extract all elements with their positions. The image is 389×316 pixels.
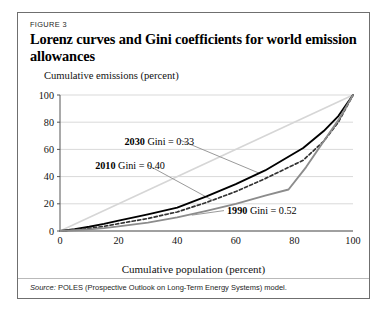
figure-number-label: FIGURE 3 xyxy=(30,20,359,30)
annotation-gini-1990: Gini = 0.52 xyxy=(247,205,296,216)
y-tick-40: 40 xyxy=(44,171,54,182)
annotation-year-2010: 2010 xyxy=(95,160,115,171)
annotation-year-2030: 2030 xyxy=(124,136,144,147)
y-tick-80: 80 xyxy=(44,117,54,128)
x-tick-labels: 020406080100 xyxy=(57,235,360,246)
y-tick-labels: 020406080100 xyxy=(39,90,60,237)
annotation-2030: 2030 Gini = 0.33 xyxy=(124,136,194,147)
y-tick-60: 60 xyxy=(44,144,54,155)
figure-title: Lorenz curves and Gini coefficients for … xyxy=(30,31,359,64)
x-tick-40: 40 xyxy=(172,235,182,246)
x-tick-20: 20 xyxy=(114,235,124,246)
annotation-1990: 1990 Gini = 0.52 xyxy=(227,205,297,216)
figure-card: FIGURE 3 Lorenz curves and Gini coeffici… xyxy=(17,12,370,299)
y-tick-20: 20 xyxy=(44,198,54,209)
x-tick-60: 60 xyxy=(231,235,241,246)
source-note: Source: POLES (Prospective Outlook on Lo… xyxy=(30,283,359,293)
source-text: POLES (Prospective Outlook on Long-Term … xyxy=(58,283,287,292)
x-tick-100: 100 xyxy=(345,235,360,246)
source-separator xyxy=(18,278,369,279)
y-tick-0: 0 xyxy=(49,226,54,237)
annotation-year-1990: 1990 xyxy=(227,205,247,216)
annotation-2010: 2010 Gini = 0.40 xyxy=(95,160,165,171)
annotation-gini-2030: Gini = 0.33 xyxy=(145,136,194,147)
y-tick-100: 100 xyxy=(39,90,54,101)
x-axis-title: Cumulative population (percent) xyxy=(18,263,369,275)
plot-area: 020406080100 020406080100 2030 Gini = 0.… xyxy=(28,89,361,261)
lorenz-curve-chart: 020406080100 020406080100 2030 Gini = 0.… xyxy=(28,89,361,261)
source-lead: Source: xyxy=(30,283,56,292)
figure-inner: FIGURE 3 Lorenz curves and Gini coeffici… xyxy=(18,13,369,298)
x-tick-80: 80 xyxy=(289,235,299,246)
y-axis-title: Cumulative emissions (percent) xyxy=(44,70,359,82)
x-tick-0: 0 xyxy=(57,235,62,246)
annotation-gini-2010: Gini = 0.40 xyxy=(116,160,165,171)
